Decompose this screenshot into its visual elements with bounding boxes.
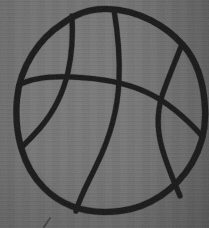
paper-grain [0, 0, 209, 228]
sketch-canvas: A roughly circular basketball outline dr… [0, 0, 209, 228]
basketball-drawing [0, 0, 209, 228]
